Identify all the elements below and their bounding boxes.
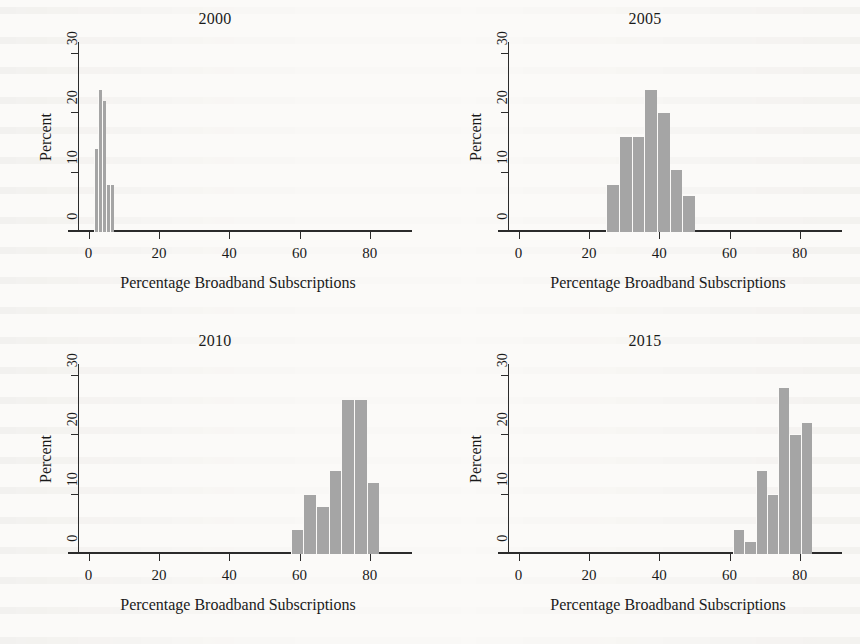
x-axis-tick-label: 20 <box>151 245 166 262</box>
histogram-bar <box>670 170 683 232</box>
y-axis-label: Percent <box>467 435 485 483</box>
bar-series <box>508 364 828 554</box>
histogram-bar <box>744 542 755 554</box>
x-axis-tick-label: 20 <box>151 567 166 584</box>
x-axis-tick <box>800 232 801 239</box>
histogram-bar <box>619 137 632 232</box>
y-axis-tick <box>71 112 78 113</box>
y-axis-tick <box>71 53 78 54</box>
y-axis-tick <box>501 53 508 54</box>
x-axis-tick <box>589 232 590 239</box>
x-axis-tick <box>370 232 371 239</box>
histogram-panel-2015: 20150102030Percent020406080Percentage Br… <box>430 322 860 644</box>
histogram-bar <box>657 113 670 232</box>
y-axis-tick <box>501 172 508 173</box>
x-axis-tick-label: 60 <box>292 245 307 262</box>
histogram-bar <box>354 400 367 554</box>
histogram-bar <box>778 388 789 554</box>
x-axis-tick-label: 0 <box>515 245 523 262</box>
x-axis-tick-label: 80 <box>362 567 377 584</box>
x-axis-tick-label: 40 <box>652 245 667 262</box>
histogram-panel-2000: 20000102030Percent020406080Percentage Br… <box>0 0 430 322</box>
x-axis-tick <box>659 554 660 561</box>
x-axis-tick-label: 60 <box>722 245 737 262</box>
y-axis-tick <box>71 494 78 495</box>
histogram-bar <box>632 137 645 232</box>
histogram-bar <box>756 471 767 554</box>
x-axis-tick <box>519 232 520 239</box>
histogram-bar <box>291 530 304 554</box>
plot-area: 0102030Percent020406080Percentage Broadb… <box>78 364 398 554</box>
panel-title: 2005 <box>430 10 860 28</box>
histogram-bar <box>316 507 329 555</box>
histogram-panel-2005: 20050102030Percent020406080Percentage Br… <box>430 0 860 322</box>
histogram-bar <box>789 435 800 554</box>
x-axis-tick <box>229 232 230 239</box>
x-axis-tick <box>730 554 731 561</box>
x-axis-tick-label: 20 <box>581 567 596 584</box>
panel-title: 2015 <box>430 332 860 350</box>
x-axis-tick <box>229 554 230 561</box>
x-axis-tick-label: 0 <box>85 245 93 262</box>
x-axis-tick-label: 80 <box>792 245 807 262</box>
panel-title: 2010 <box>0 332 430 350</box>
histogram-bar <box>606 185 619 233</box>
x-axis-label: Percentage Broadband Subscriptions <box>438 274 860 292</box>
x-axis-tick-label: 40 <box>222 245 237 262</box>
x-axis-tick <box>589 554 590 561</box>
histogram-bar <box>801 423 812 554</box>
plot-area: 0102030Percent020406080Percentage Broadb… <box>78 42 398 232</box>
plot-area: 0102030Percent020406080Percentage Broadb… <box>508 42 828 232</box>
x-axis-tick <box>730 232 731 239</box>
histogram-bar <box>110 185 114 233</box>
x-axis-tick <box>89 232 90 239</box>
y-axis-tick <box>501 112 508 113</box>
x-axis-label: Percentage Broadband Subscriptions <box>8 596 468 614</box>
x-axis-tick <box>659 232 660 239</box>
histogram-bar <box>367 483 380 554</box>
x-axis-tick <box>89 554 90 561</box>
x-axis-tick-label: 60 <box>292 567 307 584</box>
x-axis-tick <box>519 554 520 561</box>
y-axis-tick <box>501 434 508 435</box>
histogram-bar <box>682 196 695 232</box>
x-axis-tick <box>800 554 801 561</box>
x-axis-tick-label: 20 <box>581 245 596 262</box>
histogram-panel-grid: 20000102030Percent020406080Percentage Br… <box>0 0 860 644</box>
x-axis-tick-label: 0 <box>85 567 93 584</box>
histogram-bar <box>341 400 354 554</box>
x-axis-tick <box>159 554 160 561</box>
histogram-bar <box>329 471 342 554</box>
y-axis-tick <box>501 375 508 376</box>
histogram-bar <box>303 495 316 554</box>
x-axis-tick-label: 60 <box>722 567 737 584</box>
bar-series <box>78 42 398 232</box>
panel-title: 2000 <box>0 10 430 28</box>
y-axis-label: Percent <box>467 113 485 161</box>
x-axis-tick <box>370 554 371 561</box>
x-axis-tick <box>300 554 301 561</box>
x-axis-tick-label: 0 <box>515 567 523 584</box>
histogram-bar <box>767 495 778 554</box>
x-axis-tick-label: 80 <box>362 245 377 262</box>
bar-series <box>78 364 398 554</box>
y-axis-tick <box>71 434 78 435</box>
x-axis-label: Percentage Broadband Subscriptions <box>8 274 468 292</box>
histogram-bar <box>733 530 744 554</box>
x-axis-tick <box>300 232 301 239</box>
y-axis-tick <box>71 172 78 173</box>
x-axis-tick-label: 40 <box>652 567 667 584</box>
y-axis-label: Percent <box>37 113 55 161</box>
y-axis-tick <box>71 375 78 376</box>
histogram-panel-2010: 20100102030Percent020406080Percentage Br… <box>0 322 430 644</box>
bar-series <box>508 42 828 232</box>
x-axis-tick <box>159 232 160 239</box>
x-axis-tick-label: 80 <box>792 567 807 584</box>
plot-area: 0102030Percent020406080Percentage Broadb… <box>508 364 828 554</box>
histogram-bar <box>644 90 657 233</box>
y-axis-label: Percent <box>37 435 55 483</box>
x-axis-label: Percentage Broadband Subscriptions <box>438 596 860 614</box>
x-axis-tick-label: 40 <box>222 567 237 584</box>
y-axis-tick <box>501 494 508 495</box>
